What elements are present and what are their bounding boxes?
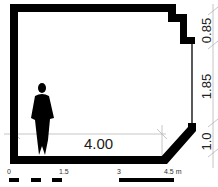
scale-bar	[0, 0, 218, 187]
